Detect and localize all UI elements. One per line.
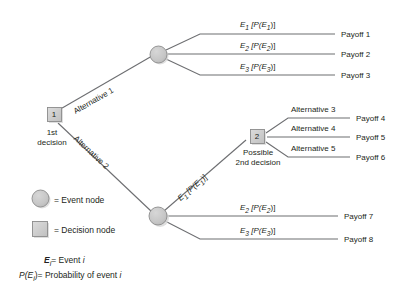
payoff-label-3: Payoff 3	[341, 71, 370, 81]
decision-tree-diagram: 1 2 1st decision Possible 2nd decision A…	[0, 0, 419, 290]
event-node-bottom[interactable]	[149, 207, 169, 227]
legend-event-definition: Ei= Event i	[44, 255, 85, 269]
payoff-label-4: Payoff 4	[356, 114, 385, 124]
payoff-label-1: Payoff 1	[341, 30, 370, 40]
payoff-label-5: Payoff 5	[356, 133, 385, 143]
legend-decision-node-symbol	[33, 222, 50, 239]
decision-node-1-number: 1	[47, 110, 61, 119]
payoff-label-7: Payoff 7	[344, 212, 373, 222]
branch-label-e2-top: E2 [P(E2)]	[240, 41, 275, 53]
branch-label-alternative-3: Alternative 3	[291, 105, 335, 115]
branch-label-e3-bottom: E3 [P(E3)]	[240, 226, 275, 238]
legend-probability-definition: P(Ei)= Probability of event i	[19, 270, 121, 284]
event-node-top[interactable]	[150, 46, 169, 65]
payoff-label-8: Payoff 8	[344, 235, 373, 245]
branch-label-e2-bottom: E2 [P(E2)]	[240, 203, 275, 215]
branch-line-alternative-1	[57, 56, 152, 111]
second-decision-caption: Possible 2nd decision	[227, 148, 289, 168]
branch-label-alternative-5: Alternative 5	[291, 144, 335, 154]
branch-label-alternative-4: Alternative 4	[291, 124, 335, 134]
payoff-label-2: Payoff 2	[341, 50, 370, 60]
legend-event-node-symbol	[32, 190, 51, 209]
legend-decision-node-label: = Decision node	[54, 225, 115, 236]
branch-label-e3-top: E3 [P(E3)]	[240, 62, 275, 74]
decision-node-2-number: 2	[250, 132, 264, 141]
payoff-label-6: Payoff 6	[356, 153, 385, 163]
legend-event-node-label: = Event node	[54, 195, 104, 206]
branch-label-e1-top: E1 [P(E1)]	[240, 20, 275, 32]
